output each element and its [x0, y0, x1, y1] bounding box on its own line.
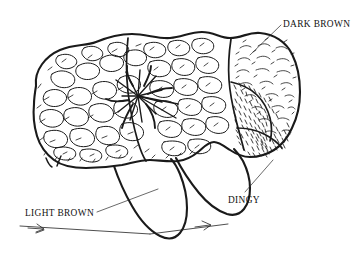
figure-root: DARK BROWN LIGHT BROWN DINGY [0, 0, 356, 260]
liver-illustration: DARK BROWN LIGHT BROWN DINGY [0, 0, 356, 260]
label-dingy: DINGY [228, 195, 260, 205]
label-light-brown: LIGHT BROWN [25, 208, 94, 218]
label-dark-brown: DARK BROWN [283, 19, 350, 29]
